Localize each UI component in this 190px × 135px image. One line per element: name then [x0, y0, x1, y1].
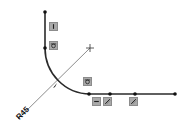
vertex-point[interactable] [43, 10, 47, 14]
sketch-canvas[interactable] [0, 0, 190, 135]
vertex-point[interactable] [133, 92, 137, 96]
vertex-point[interactable] [173, 92, 177, 96]
tangent-relation-icon[interactable] [49, 41, 58, 50]
collinear-relation-icon[interactable] [103, 97, 112, 106]
vertex-point[interactable] [108, 92, 112, 96]
collinear-relation-icon[interactable] [129, 97, 138, 106]
tangent-relation-icon[interactable] [83, 77, 92, 86]
vertical-relation-icon[interactable] [49, 22, 58, 31]
vertex-point[interactable] [87, 92, 91, 96]
vertex-point[interactable] [43, 46, 47, 50]
horizontal-relation-icon[interactable] [92, 97, 101, 106]
